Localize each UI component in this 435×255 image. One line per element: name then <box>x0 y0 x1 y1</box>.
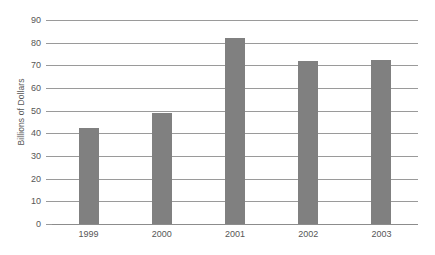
bar-chart: Billions of Dollars 0102030405060708090 … <box>0 0 435 255</box>
y-axis-tick-label: 30 <box>11 152 41 161</box>
y-axis-tick-label: 0 <box>11 220 41 229</box>
x-axis-tick-label: 2000 <box>140 230 184 239</box>
bar <box>152 113 172 224</box>
bars-layer <box>52 20 418 224</box>
y-axis-tick-labels: 0102030405060708090 <box>0 0 52 255</box>
y-axis-tick-mark <box>46 224 52 225</box>
x-axis-tick-label: 1999 <box>67 230 111 239</box>
x-axis-tick-label: 2003 <box>359 230 403 239</box>
bar <box>79 128 99 224</box>
y-axis-tick-label: 70 <box>11 61 41 70</box>
axis-baseline <box>52 224 418 225</box>
y-axis-tick-label: 80 <box>11 38 41 47</box>
bar <box>371 60 391 224</box>
y-axis-tick-label: 60 <box>11 84 41 93</box>
y-axis-tick-label: 10 <box>11 197 41 206</box>
y-axis-tick-label: 40 <box>11 129 41 138</box>
x-axis-tick-labels: 19992000200120022003 <box>52 230 418 248</box>
x-axis-tick-label: 2002 <box>286 230 330 239</box>
y-axis-tick-label: 20 <box>11 174 41 183</box>
bar <box>225 38 245 224</box>
y-axis-tick-label: 50 <box>11 106 41 115</box>
bar <box>298 61 318 224</box>
y-axis-tick-label: 90 <box>11 16 41 25</box>
x-axis-tick-label: 2001 <box>213 230 257 239</box>
